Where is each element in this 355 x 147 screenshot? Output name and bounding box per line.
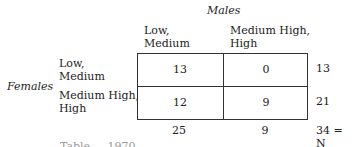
column-header-low-medium: Low, Medium [144, 24, 190, 50]
cell-r1-c2: 0 [246, 63, 286, 76]
row-total-1: 13 [316, 62, 330, 75]
grand-total: 34 = N [316, 124, 355, 147]
row-header-low-medium: Low, Medium [59, 57, 105, 83]
row-variable-label: Females [7, 80, 53, 93]
column-total-2: 9 [245, 124, 285, 137]
column-total-1: 25 [159, 124, 199, 137]
row-divider [138, 86, 307, 87]
cell-r2-c1: 12 [160, 96, 200, 109]
table-grid: 13 0 12 9 [137, 53, 308, 120]
row-header-medium-high: Medium High, High [59, 89, 139, 115]
caption-partial: Table ... 1970 [60, 141, 136, 147]
cell-r2-c2: 9 [246, 96, 286, 109]
column-header-medium-high: Medium High, High [230, 24, 310, 50]
cell-r1-c1: 13 [160, 63, 200, 76]
column-variable-label: Males [207, 4, 241, 17]
row-total-2: 21 [316, 95, 330, 108]
